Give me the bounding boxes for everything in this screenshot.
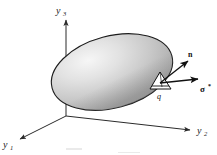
y2-axis-subscript: 2 — [204, 130, 208, 137]
figure-container: y 3 y 2 y 1 — [0, 0, 217, 155]
y1-axis-line — [20, 116, 66, 139]
figure-svg: y 3 y 2 y 1 — [0, 0, 217, 155]
y1-axis: y 1 — [2, 116, 66, 151]
y2-axis: y 2 — [66, 116, 208, 137]
y3-axis-label: y — [55, 5, 61, 16]
y2-axis-label: y — [196, 125, 202, 136]
y1-axis-subscript: 1 — [10, 144, 13, 151]
traction-vector-label: σ — [200, 84, 205, 94]
normal-vector-label: n — [188, 50, 193, 59]
traction-vector-superscript: * — [208, 83, 211, 89]
caption-remnant — [62, 146, 158, 152]
y1-axis-label: y — [2, 139, 8, 150]
point-q-label: q — [157, 92, 161, 101]
y3-axis-subscript: 3 — [62, 10, 67, 17]
y2-axis-line — [66, 116, 190, 130]
